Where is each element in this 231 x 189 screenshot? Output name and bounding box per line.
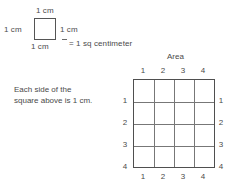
grid-right-label: 1 [217, 96, 225, 105]
area-diagram: 1 cm 1 cm 1 cm 1 cm = 1 sq centimeter Ea… [0, 0, 231, 189]
grid-top-label: 4 [198, 66, 208, 75]
grid-left-label: 2 [121, 118, 129, 127]
grid-bottom-label: 2 [158, 172, 168, 181]
grid-left-label: 4 [121, 162, 129, 171]
caption-line-1: Each side of the [14, 84, 119, 95]
equals-sign-icon [62, 39, 67, 40]
grid-top-label: 2 [158, 66, 168, 75]
unit-square-bottom-label: 1 cm [31, 42, 49, 51]
grid-bottom-label: 4 [198, 172, 208, 181]
grid-line-horizontal [134, 124, 214, 125]
grid-bottom-label: 3 [178, 172, 188, 181]
square-centimeter-label: = 1 sq centimeter [69, 39, 132, 48]
caption-line-2: square above is 1 cm. [14, 95, 119, 106]
caption-text: Each side of the square above is 1 cm. [14, 84, 119, 106]
unit-square-left-label: 1 cm [4, 25, 22, 34]
grid-right-label: 4 [217, 162, 225, 171]
unit-square-right-label: 1 cm [60, 25, 78, 34]
unit-square-top-label: 1 cm [36, 6, 54, 15]
unit-square-shape [34, 18, 56, 40]
area-grid [133, 79, 215, 168]
grid-left-label: 1 [121, 96, 129, 105]
grid-left-label: 3 [121, 140, 129, 149]
grid-line-horizontal [134, 102, 214, 103]
grid-right-label: 2 [217, 118, 225, 127]
grid-top-label: 3 [178, 66, 188, 75]
unit-square-illustration: 1 cm 1 cm 1 cm 1 cm = 1 sq centimeter [0, 0, 115, 56]
grid-right-label: 3 [217, 140, 225, 149]
grid-line-horizontal [134, 146, 214, 147]
grid-bottom-label: 1 [138, 172, 148, 181]
area-title: Area [167, 52, 184, 61]
area-grid-group: Area 1 2 3 4 1 2 3 4 1 2 3 4 1 2 3 4 [118, 48, 231, 189]
grid-top-label: 1 [138, 66, 148, 75]
